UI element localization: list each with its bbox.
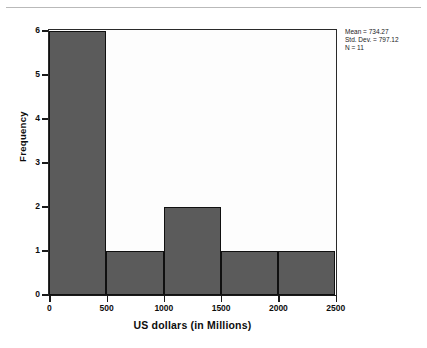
histogram-bar [278, 251, 335, 295]
y-axis-tick-label: 6 [18, 25, 40, 35]
stat-n: N = 11 [345, 44, 399, 52]
x-axis-tick [221, 296, 222, 302]
x-axis-tick [107, 296, 108, 302]
histogram-bar [49, 31, 106, 295]
y-axis-tick-label: 1 [18, 245, 40, 255]
y-axis-title: Frequency [17, 77, 28, 197]
histogram-figure: Frequency 0123456 05001000150020002500 U… [0, 0, 427, 348]
x-axis-tick [49, 296, 50, 302]
histogram-bar [221, 251, 278, 295]
stat-mean: Mean = 734.27 [345, 28, 399, 36]
x-axis-tick [164, 296, 165, 302]
y-axis-tick-label: 0 [18, 289, 40, 299]
stat-std-dev: Std. Dev. = 797.12 [345, 36, 399, 44]
x-axis-tick [278, 296, 279, 302]
x-axis-title: US dollars (in Millions) [48, 319, 337, 331]
x-axis-tick-label: 0 [29, 303, 69, 313]
y-axis-tick-label: 4 [18, 113, 40, 123]
histogram-bars [49, 30, 336, 295]
x-axis-tick-label: 500 [87, 303, 127, 313]
histogram-bar [164, 207, 221, 295]
x-axis-tick [336, 296, 337, 302]
statistics-annotation: Mean = 734.27 Std. Dev. = 797.12 N = 11 [345, 28, 399, 53]
x-axis-tick-label: 1000 [144, 303, 184, 313]
y-axis-tick-label: 5 [18, 69, 40, 79]
histogram-bar [106, 251, 163, 295]
x-axis-tick-label: 2500 [316, 303, 356, 313]
y-axis-tick-label: 2 [18, 201, 40, 211]
x-axis-tick-label: 2000 [258, 303, 298, 313]
y-axis-tick-label: 3 [18, 157, 40, 167]
x-axis-tick-label: 1500 [201, 303, 241, 313]
plot-area [48, 29, 337, 296]
